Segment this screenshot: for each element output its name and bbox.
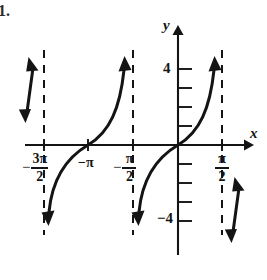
- branch-through-origin: [139, 70, 214, 212]
- x-tick-label-minus-pi: −π: [78, 155, 94, 171]
- x-tick-label-minus-pi-over-2: − π 2: [113, 152, 136, 184]
- fraction-denominator: 2: [36, 170, 43, 184]
- fraction-minus-pi-over-2: π 2: [122, 152, 136, 184]
- fraction-numerator: π: [125, 152, 135, 166]
- x-tick-label-pi-over-2: π 2: [215, 152, 229, 184]
- y-axis-label: y: [163, 18, 170, 33]
- tangent-plot: [0, 0, 267, 280]
- branch-partial-left: [27, 68, 33, 112]
- minus-sign-pi-over-2: −: [113, 160, 121, 175]
- y-tick-label-4: 4: [163, 61, 171, 76]
- asymptote-group: [44, 50, 222, 235]
- curve-group: [19, 56, 245, 243]
- y-axis-arrowhead: [173, 25, 184, 35]
- fraction-denominator: 2: [126, 170, 133, 184]
- x-axis-arrowhead: [244, 140, 254, 151]
- minus-sign-3pi-over-2: −: [22, 160, 30, 175]
- branch-origin-arrowhead-up: [209, 56, 222, 72]
- y-tick-label-minus-4: −4: [157, 211, 173, 226]
- branch-partial-right-arrowhead-up: [232, 177, 244, 192]
- fraction-pi-over-2: π 2: [215, 152, 229, 184]
- x-tick-label-minus-3pi-over-2: − 3π 2: [22, 152, 48, 184]
- branch-partial-right: [233, 188, 239, 232]
- fraction-denominator: 2: [219, 170, 226, 184]
- fraction-numerator: π: [217, 152, 227, 166]
- branch-through-minus-pi: [49, 70, 124, 212]
- fraction-3pi-over-2: 3π 2: [31, 152, 48, 184]
- branch-partial-right-arrowhead-down: [225, 229, 237, 243]
- tangent-graph-figure: 1.: [0, 0, 267, 280]
- fraction-numerator: 3π: [31, 152, 48, 166]
- branch-partial-left-arrowhead-down: [19, 109, 31, 123]
- branch-minus-pi-arrowhead-up: [119, 56, 132, 72]
- x-axis-label: x: [250, 126, 258, 141]
- branch-partial-left-arrowhead-up: [26, 57, 38, 72]
